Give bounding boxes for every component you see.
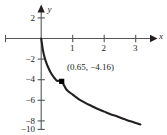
y-tick-label-minus-10: −10	[13, 125, 35, 134]
x-tick-label-1: 1	[70, 44, 75, 53]
graph-figure: 2 −2 −4 −6 −8 −10 1 2 3 y x (0.65, −4.16…	[0, 0, 167, 135]
y-tick-label-minus-2: −2	[18, 55, 35, 64]
y-tick-label-minus-6: −6	[18, 96, 35, 105]
x-tick-label-3: 3	[133, 44, 138, 53]
point-annotation-label: (0.65, −4.16)	[67, 62, 114, 72]
data-curve	[41, 39, 140, 125]
x-axis-name: x	[159, 32, 163, 41]
y-tick-label-2: 2	[20, 14, 35, 23]
y-axis-name: y	[48, 5, 52, 14]
y-tick-label-minus-4: −4	[18, 75, 35, 84]
x-tick-label-2: 2	[102, 44, 107, 53]
y-axis	[38, 5, 45, 131]
highlighted-point-marker	[59, 79, 64, 84]
x-axis	[5, 35, 158, 42]
